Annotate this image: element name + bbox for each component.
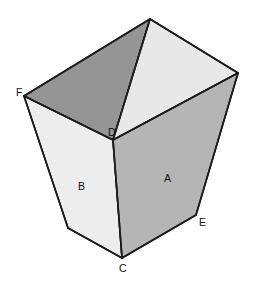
face-label-b: B <box>78 180 85 192</box>
diagram-canvas: F D C E A B <box>0 0 255 284</box>
vertex-label-c: C <box>119 262 127 274</box>
vertex-label-d: D <box>108 126 116 138</box>
vertex-label-e: E <box>199 216 206 228</box>
frustum-figure: F D C E A B <box>0 0 255 284</box>
face-label-a: A <box>164 172 171 184</box>
vertex-label-f: F <box>16 86 22 98</box>
